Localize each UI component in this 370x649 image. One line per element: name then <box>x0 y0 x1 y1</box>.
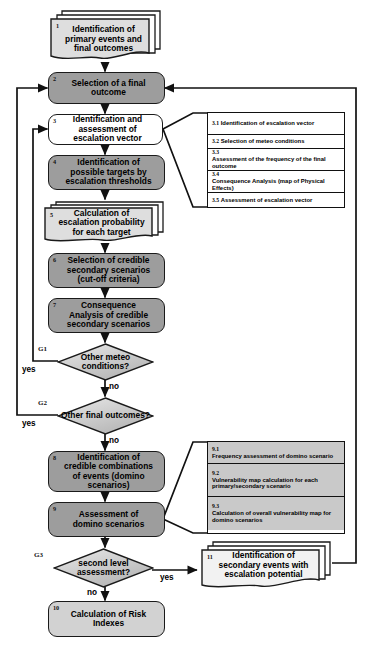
node-3-label: Identification and assessment of escalat… <box>63 115 152 143</box>
node-8-label: Identification of credible combinations … <box>63 453 154 491</box>
panel-3-row-label: Assessment of escalation vector <box>221 197 313 204</box>
panel-3-row-key: 3.3 <box>212 149 219 155</box>
panel-9-row-key: 9.3 <box>212 503 219 509</box>
panel-9-row-label: Vulnerability map calculation for each p… <box>212 477 340 491</box>
panel-step-9: 9.1 Frequency assessment of domino scena… <box>207 441 345 534</box>
node-9-label: Assessment of domino scenarios <box>63 510 154 529</box>
node-4-number: 4 <box>53 158 56 165</box>
panel-9-row-key: 9.2 <box>212 470 219 476</box>
panel-3-row[interactable]: 3.2 Selection of meteo conditions <box>208 135 344 149</box>
panel-3-row[interactable]: 3.3 Assessment of the frequency of the f… <box>208 149 344 171</box>
gate-g3-no-label: no <box>87 588 97 597</box>
node-4[interactable]: Identification of possible targets by es… <box>48 155 165 190</box>
node-2-number: 2 <box>53 75 56 82</box>
node-11[interactable]: Identification of secondary events with … <box>198 540 333 590</box>
node-10-number: 10 <box>53 604 59 611</box>
gate-g2-no-label: no <box>109 436 119 445</box>
node-10[interactable]: Calculation of Risk Indexes <box>48 601 165 637</box>
node-1-number: 1 <box>56 22 59 29</box>
gate-g3-shape <box>53 548 154 588</box>
panel-9-row[interactable]: 9.2 Vulnerability map calculation for ea… <box>208 464 344 497</box>
gate-g3[interactable]: second level assessment? <box>53 548 154 588</box>
panel-3-row-label: Identification of escalation vector <box>221 120 315 127</box>
node-3[interactable]: Identification and assessment of escalat… <box>48 114 163 145</box>
node-5-shape <box>42 200 166 244</box>
panel-9-row[interactable]: 9.3 Calculation of overall vulnerability… <box>208 497 344 530</box>
node-8[interactable]: Identification of credible combinations … <box>48 451 165 492</box>
gate-g1-tag: G1 <box>38 345 47 353</box>
panel-9-row[interactable]: 9.1 Frequency assessment of domino scena… <box>208 442 344 464</box>
node-7-label: Consequence Analysis of credible seconda… <box>63 301 154 329</box>
node-6[interactable]: Selection of credible secondary scenario… <box>48 253 165 288</box>
gate-g3-yes-label: yes <box>160 573 174 582</box>
node-11-shape <box>198 540 333 590</box>
node-2[interactable]: Selection of a final outcome <box>48 72 165 104</box>
panel-3-row[interactable]: 3.5 Assessment of escalation vector <box>208 193 344 207</box>
node-5[interactable]: Calculation of escalation probability fo… <box>42 200 166 244</box>
panel-9-row-key: 9.1 <box>212 446 219 452</box>
panel-3-row-label: Assessment of the frequency of the final… <box>212 156 340 170</box>
gate-g2-tag: G2 <box>38 399 47 407</box>
node-1[interactable]: Identification of primary events and fin… <box>48 8 163 62</box>
gate-g1[interactable]: Other meteo conditions? <box>57 343 154 381</box>
node-7[interactable]: Consequence Analysis of credible seconda… <box>48 298 165 333</box>
gate-g1-yes-label: yes <box>22 365 36 374</box>
gate-g2[interactable]: Other final outcomes? <box>57 397 154 435</box>
node-7-number: 7 <box>53 301 56 308</box>
node-11-number: 11 <box>207 553 213 560</box>
panel-3-row-key: 3.5 <box>212 197 219 203</box>
node-6-number: 6 <box>53 256 56 263</box>
node-2-label: Selection of a final outcome <box>63 79 154 98</box>
gate-g2-shape <box>57 397 154 435</box>
panel-3-row-key: 3.1 <box>212 120 219 126</box>
node-9-number: 9 <box>53 505 56 512</box>
node-6-label: Selection of credible secondary scenario… <box>63 256 154 284</box>
gate-g2-yes-label: yes <box>22 419 36 428</box>
node-10-label: Calculation of Risk Indexes <box>63 610 154 629</box>
panel-3-row[interactable]: 3.4 Consequence Analysis (map of Physica… <box>208 171 344 193</box>
panel-9-row-label: Calculation of overall vulnerability map… <box>212 510 340 524</box>
node-4-label: Identification of possible targets by es… <box>63 158 154 186</box>
flowchart-canvas: Identification of primary events and fin… <box>0 0 370 649</box>
node-1-shape <box>48 8 163 62</box>
panel-3-row-key: 3.2 <box>212 138 219 144</box>
panel-3-row-label: Consequence Analysis (map of Physical Ef… <box>212 178 340 192</box>
node-8-number: 8 <box>53 454 56 461</box>
panel-3-row[interactable]: 3.1 Identification of escalation vector <box>208 113 344 135</box>
panel-step-3: 3.1 Identification of escalation vector … <box>207 112 345 208</box>
node-3-number: 3 <box>53 117 56 124</box>
panel-3-row-key: 3.4 <box>212 171 219 177</box>
node-5-number: 5 <box>50 211 53 218</box>
panel-9-row-label: Frequency assessment of domino scenario <box>212 453 333 460</box>
node-9[interactable]: Assessment of domino scenarios <box>48 502 165 537</box>
fan-bracket-9 <box>163 442 207 533</box>
gate-g1-no-label: no <box>109 382 119 391</box>
fan-bracket-3 <box>163 113 207 207</box>
panel-3-row-label: Selection of meteo conditions <box>221 138 305 145</box>
gate-g3-tag: G3 <box>34 551 43 559</box>
gate-g1-shape <box>57 343 154 381</box>
